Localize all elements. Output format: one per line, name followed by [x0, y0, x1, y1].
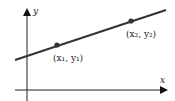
point-1-marker: [54, 42, 59, 47]
y-axis-arrow-icon: [23, 8, 31, 16]
y-axis-label: y: [32, 6, 39, 16]
point-1-label: (x₁, y₁): [53, 53, 83, 63]
line-through-two-points-diagram: y x (x₁, y₁) (x₂, y₂): [0, 0, 175, 101]
point-2-label: (x₂, y₂): [126, 29, 156, 39]
point-2-marker: [128, 18, 133, 23]
x-axis-arrow-icon: [160, 86, 168, 94]
x-axis-label: x: [160, 75, 165, 85]
x-axis: [15, 86, 168, 94]
